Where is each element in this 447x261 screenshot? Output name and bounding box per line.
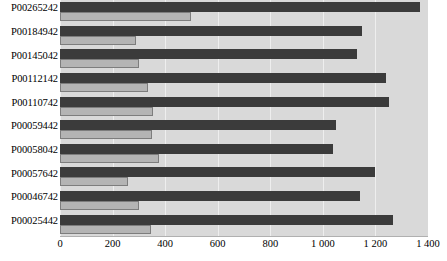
bar-series-2 [60, 177, 128, 186]
bar-group [60, 165, 428, 189]
bar-group [60, 0, 428, 24]
x-tick-label: 600 [210, 239, 226, 250]
bar-series-1 [60, 120, 336, 130]
x-tick-label: 200 [105, 239, 121, 250]
category-axis-labels: P00265242P00184942P00145042P00112142P001… [0, 0, 58, 236]
bar-series-2 [60, 130, 152, 139]
bar-group [60, 71, 428, 95]
bar-series-2 [60, 201, 139, 210]
bar-series-1 [60, 26, 362, 36]
bar-group [60, 189, 428, 213]
x-tick-label: 1 200 [364, 239, 388, 250]
bar-series-1 [60, 49, 357, 59]
bar-chart: P00265242P00184942P00145042P00112142P001… [0, 0, 447, 261]
bar-group [60, 118, 428, 142]
bar-group [60, 47, 428, 71]
plot-area [60, 0, 428, 236]
value-axis: 02004006008001 0001 2001 400 [60, 236, 428, 261]
axis-line [60, 236, 428, 237]
bar-group [60, 24, 428, 48]
category-label: P00057642 [0, 169, 58, 180]
bar-series-2 [60, 154, 159, 163]
x-tick-label: 400 [157, 239, 173, 250]
category-label: P00145042 [0, 51, 58, 62]
bar-series-2 [60, 83, 148, 92]
bar-series-1 [60, 2, 420, 12]
bar-series-2 [60, 12, 191, 21]
category-label: P00112142 [0, 74, 58, 85]
bar-series-1 [60, 215, 393, 225]
x-tick-label: 800 [262, 239, 278, 250]
category-label: P00059442 [0, 121, 58, 132]
x-tick-label: 0 [57, 239, 62, 250]
bar-series-2 [60, 59, 139, 68]
bar-group [60, 142, 428, 166]
bar-group [60, 212, 428, 236]
bar-series-1 [60, 167, 375, 177]
category-label: P00184942 [0, 27, 58, 38]
bar-series-1 [60, 73, 386, 83]
category-label: P00265242 [0, 3, 58, 14]
bar-series-1 [60, 144, 333, 154]
x-tick-label: 1 400 [416, 239, 440, 250]
category-label: P00046742 [0, 192, 58, 203]
bar-series-1 [60, 97, 389, 107]
bar-series-2 [60, 107, 153, 116]
category-label: P00110742 [0, 98, 58, 109]
bar-series-2 [60, 36, 136, 45]
x-tick-label: 1 000 [311, 239, 335, 250]
bar-series-2 [60, 225, 151, 234]
category-label: P00058042 [0, 145, 58, 156]
bar-group [60, 94, 428, 118]
category-label: P00025442 [0, 216, 58, 227]
bar-series-1 [60, 191, 360, 201]
